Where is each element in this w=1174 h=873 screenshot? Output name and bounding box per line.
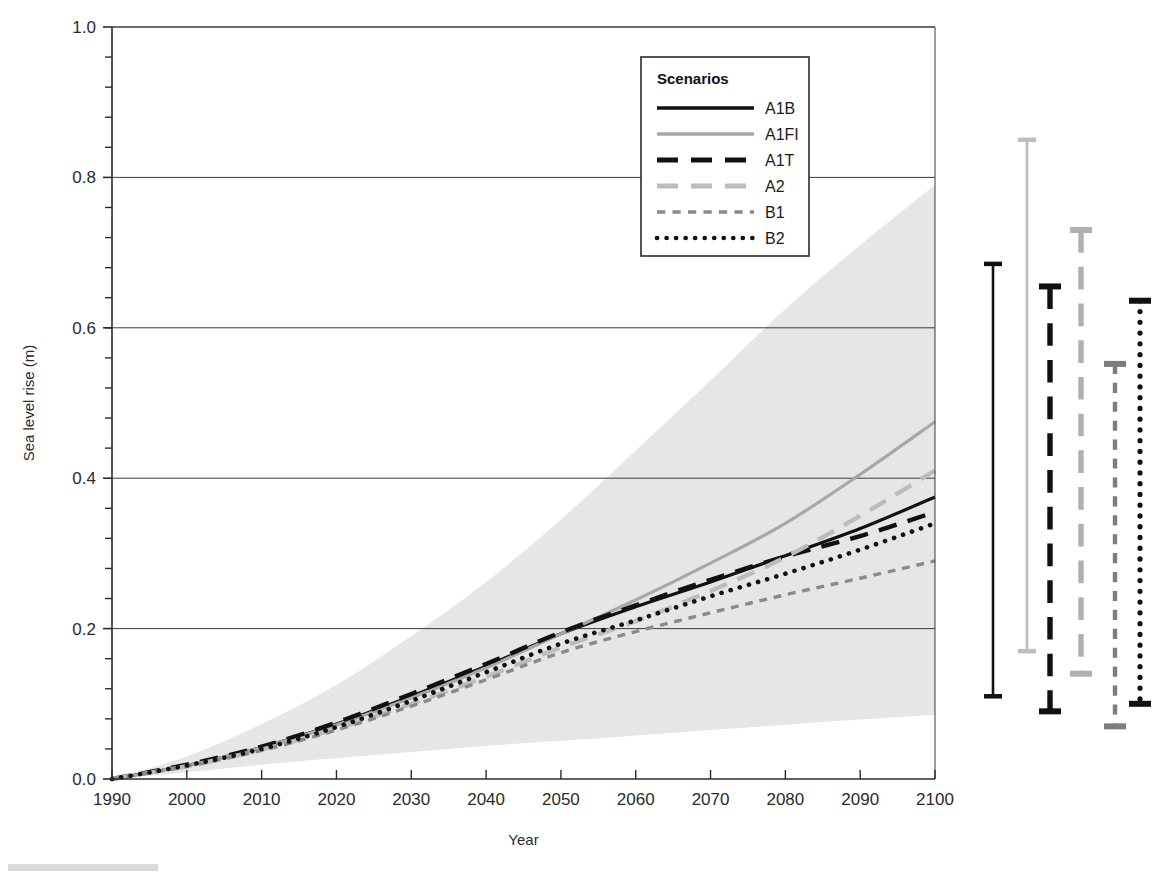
sea-level-rise-figure: 0.00.20.40.60.81.01990200020102020203020… <box>0 0 1174 873</box>
legend-label-b1: B1 <box>765 204 785 221</box>
x-tick-label-2040: 2040 <box>467 790 505 809</box>
x-tick-label-2010: 2010 <box>243 790 281 809</box>
y-tick-label-0: 0.0 <box>72 770 96 789</box>
chart-canvas: 0.00.20.40.60.81.01990200020102020203020… <box>0 0 1174 873</box>
x-tick-label-2000: 2000 <box>168 790 206 809</box>
x-tick-label-1990: 1990 <box>93 790 131 809</box>
legend-title: Scenarios <box>657 70 729 87</box>
x-tick-label-2060: 2060 <box>617 790 655 809</box>
x-tick-label-2020: 2020 <box>318 790 356 809</box>
y-tick-label-0.8: 0.8 <box>72 168 96 187</box>
legend-label-b2: B2 <box>765 230 785 247</box>
x-tick-label-2100: 2100 <box>916 790 954 809</box>
x-axis-title: Year <box>508 831 538 848</box>
page-bottom-marker <box>8 864 158 871</box>
legend-label-a1b: A1B <box>765 100 795 117</box>
x-tick-label-2070: 2070 <box>692 790 730 809</box>
x-tick-label-2050: 2050 <box>542 790 580 809</box>
x-tick-label-2090: 2090 <box>841 790 879 809</box>
y-axis-title: Sea level rise (m) <box>20 345 37 462</box>
y-tick-label-1: 1.0 <box>72 18 96 37</box>
legend-label-a2: A2 <box>765 178 785 195</box>
legend-label-a1t: A1T <box>765 152 795 169</box>
legend-label-a1fi: A1FI <box>765 126 799 143</box>
x-tick-label-2030: 2030 <box>392 790 430 809</box>
page-bottom-strip <box>0 860 1174 873</box>
uncertainty-envelope <box>112 185 935 779</box>
y-tick-label-0.2: 0.2 <box>72 620 96 639</box>
y-tick-label-0.4: 0.4 <box>72 469 96 488</box>
x-tick-label-2080: 2080 <box>766 790 804 809</box>
y-tick-label-0.6: 0.6 <box>72 319 96 338</box>
